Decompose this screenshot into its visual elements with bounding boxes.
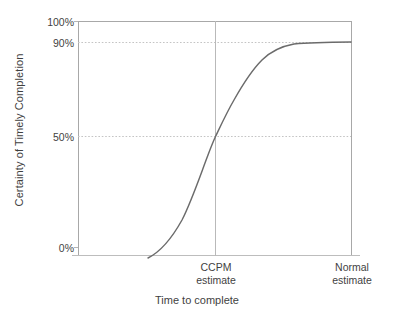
- x-tick-label-ccpm-line2: estimate: [161, 274, 271, 287]
- y-tick-label-90: 90%: [30, 38, 74, 48]
- x-tick-label-normal-line2: estimate: [297, 274, 394, 287]
- x-tick-label-normal-line1: Normal: [335, 261, 369, 273]
- y-tick-label-50: 50%: [30, 132, 74, 142]
- chart-figure: Certainty of Timely Completion 100% 90% …: [0, 0, 394, 317]
- x-tick-label-ccpm-line1: CCPM: [201, 261, 232, 273]
- y-tick-labels: 100% 90% 50% 0%: [30, 0, 74, 260]
- certainty-curve: [148, 42, 351, 258]
- y-tick-label-100: 100%: [30, 17, 74, 27]
- y-axis-title: Certainty of Timely Completion: [6, 0, 32, 260]
- y-tick-label-0: 0%: [30, 243, 74, 253]
- y-axis-title-text: Certainty of Timely Completion: [13, 54, 25, 207]
- x-tick-label-normal: Normal estimate: [297, 261, 394, 287]
- x-axis-title: Time to complete: [0, 294, 394, 306]
- x-tick-label-ccpm: CCPM estimate: [161, 261, 271, 287]
